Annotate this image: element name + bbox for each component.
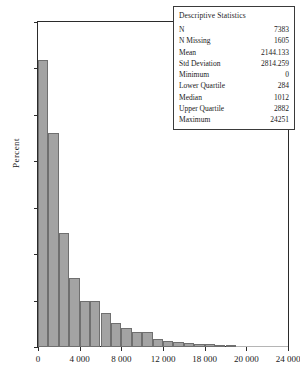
stats-row-value: 2814.259 [261,58,289,69]
stats-row-label: Maximum [179,114,210,125]
stats-row-label: Median [179,92,202,103]
stats-row: N7383 [179,24,289,35]
x-tick-label: 12 000 [151,354,176,364]
stats-row: Mean2144.133 [179,47,289,58]
x-tick-label: 4 000 [70,354,90,364]
x-tick-label: 24 000 [276,354,300,364]
stats-row: Std Deviation2814.259 [179,58,289,69]
stats-row-value: 284 [278,80,289,91]
stats-row-value: 1012 [274,92,289,103]
x-tick-mark [205,347,206,351]
x-tick-label: 0 [36,354,41,364]
stats-row-label: Minimum [179,69,209,80]
x-tick-label: 8 000 [111,354,131,364]
stats-row-label: N [179,24,184,35]
histogram-figure: 05101520253035 Percent 04 0008 00012 000… [0,0,300,387]
stats-box-title: Descriptive Statistics [179,11,289,20]
stats-row-value: 0 [285,69,289,80]
stats-row-label: N Missing [179,35,210,46]
stats-row: Maximum24251 [179,114,289,125]
stats-row: Upper Quartile2882 [179,103,289,114]
x-tick-label: 18 000 [192,354,217,364]
stats-row-label: Upper Quartile [179,103,224,114]
stats-row-label: Lower Quartile [179,80,225,91]
stats-row-value: 1605 [274,35,289,46]
x-tick-mark [121,347,122,351]
x-tick-label: 20 000 [234,354,259,364]
stats-row-value: 2144.133 [261,47,289,58]
descriptive-statistics-box: Descriptive Statistics N7383N Missing160… [173,6,295,130]
stats-row-value: 24251 [270,114,289,125]
x-tick-mark [163,347,164,351]
stats-row-value: 2882 [274,103,289,114]
stats-row-label: Mean [179,47,196,58]
stats-row: Minimum0 [179,69,289,80]
x-tick-mark [80,347,81,351]
stats-row: N Missing1605 [179,35,289,46]
x-tick-mark [38,347,39,351]
stats-row: Lower Quartile284 [179,80,289,91]
stats-rows: N7383N Missing1605Mean2144.133Std Deviat… [179,24,289,126]
x-tick-mark [288,347,289,351]
stats-row-label: Std Deviation [179,58,220,69]
x-tick-mark [246,347,247,351]
stats-row-value: 7383 [274,24,289,35]
stats-row: Median1012 [179,92,289,103]
